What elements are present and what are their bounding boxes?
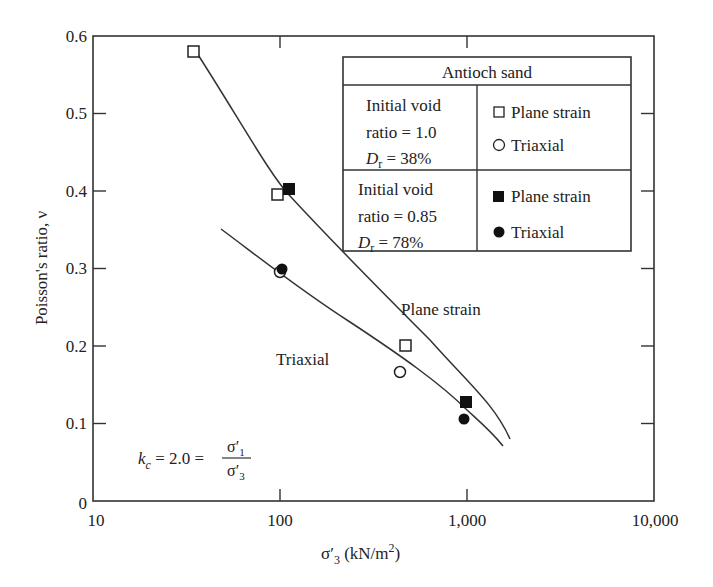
x-tick-label: 10 xyxy=(88,511,105,530)
legend-open-square-icon xyxy=(494,107,504,117)
x-tick-label: 10,000 xyxy=(632,511,679,530)
legend-g2-line2: ratio = 0.85 xyxy=(358,207,437,226)
open-square-marker xyxy=(272,189,283,200)
legend-open-circle-icon xyxy=(494,140,505,151)
filled-circle-marker xyxy=(277,264,288,275)
svg-text:kc = 2.0 =: kc = 2.0 = xyxy=(138,449,204,472)
legend-g1-dr: Dr = 38% xyxy=(365,149,432,171)
svg-text:σ′1: σ′1 xyxy=(227,438,245,458)
kc-formula: kc = 2.0 = σ′1 σ′3 xyxy=(138,438,251,482)
filled-square-marker xyxy=(460,396,472,408)
annotation-plane-strain: Plane strain xyxy=(401,300,481,319)
open-square-marker xyxy=(188,46,199,57)
y-tick-label: 0.6 xyxy=(66,27,87,46)
y-tick-label: 0.4 xyxy=(66,182,88,201)
x-tick-labels: 10 100 1,000 10,000 xyxy=(88,511,679,530)
legend-g2-dr: Dr = 78% xyxy=(357,233,424,255)
legend-g1-line1: Initial void xyxy=(366,96,442,115)
triaxial-curve xyxy=(221,229,503,446)
legend-g2-entry1: Plane strain xyxy=(511,187,591,206)
legend-filled-square-icon xyxy=(493,191,504,202)
y-tick-label: 0.1 xyxy=(66,414,87,433)
x-axis-label: σ′3 (kN/m2) xyxy=(321,541,400,567)
legend-table: Antioch sand Initial void ratio = 1.0 Dr… xyxy=(343,57,631,255)
y-tick-label: 0.5 xyxy=(66,104,87,123)
x-tick-label: 100 xyxy=(267,511,293,530)
svg-text:σ′3: σ′3 xyxy=(227,462,245,482)
legend-filled-circle-icon xyxy=(494,227,505,238)
legend-title: Antioch sand xyxy=(442,63,533,82)
open-circle-marker xyxy=(395,367,406,378)
chart: 0 0.1 0.2 0.3 0.4 0.5 0.6 10 100 1,000 1… xyxy=(0,0,713,587)
filled-square-marker xyxy=(283,183,295,195)
y-tick-labels: 0 0.1 0.2 0.3 0.4 0.5 0.6 xyxy=(66,27,88,513)
y-tick-label: 0.2 xyxy=(66,337,87,356)
y-axis-label: Poisson's ratio, ν xyxy=(32,211,51,325)
legend-g1-entry2: Triaxial xyxy=(511,136,564,155)
y-tick-label: 0 xyxy=(79,494,88,513)
legend-g1-line2: ratio = 1.0 xyxy=(366,123,437,142)
y-tick-label: 0.3 xyxy=(66,259,87,278)
series-filled-circle xyxy=(277,264,470,425)
x-tick-label: 1,000 xyxy=(448,511,486,530)
filled-circle-marker xyxy=(459,414,470,425)
legend-g2-entry2: Triaxial xyxy=(511,223,564,242)
open-square-marker xyxy=(400,340,411,351)
legend-g2-line1: Initial void xyxy=(358,180,434,199)
annotation-triaxial: Triaxial xyxy=(276,350,329,369)
legend-g1-entry1: Plane strain xyxy=(511,103,591,122)
